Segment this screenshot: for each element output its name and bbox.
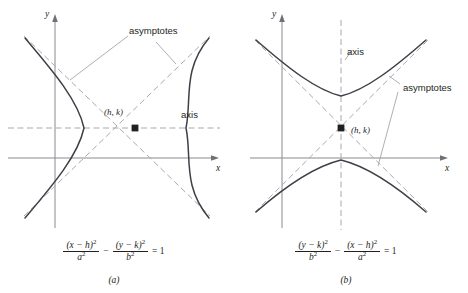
panel-b-equation: (y − k)2 b2 − (x − h)2 a2 = 1	[276, 238, 418, 264]
panel-b-equation-first-fraction: (y − k)2 b2	[295, 240, 330, 263]
panel-a-axis-label: axis	[181, 109, 198, 120]
panel-b-eq-second-denominator: a2	[355, 252, 369, 263]
panel-a-y-axis-label: y	[44, 9, 50, 19]
panel-b-eq-first-denominator: b2	[306, 252, 320, 263]
panel-b-eq-first-num-exp: 2	[324, 237, 327, 244]
panel-b-axis-label: axis	[347, 46, 364, 57]
panel-b-leader-upper	[389, 76, 400, 84]
panel-a-caption: (a)	[108, 275, 119, 286]
panel-b-caption: (b)	[340, 275, 351, 286]
panel-b-eq-second-num-text: (x − h)	[347, 240, 373, 250]
panel-a-eq-operator: −	[103, 246, 108, 256]
panel-b-x-axis-label: x	[444, 163, 450, 173]
panel-b-asymptote-leaders	[378, 76, 400, 166]
panel-a-leader-right	[156, 42, 176, 64]
panel-a-eq-second-den-exp: 2	[131, 249, 134, 256]
panel-a-center-marker	[132, 125, 139, 132]
panel-a-equation-first-fraction: (x − h)2 a2	[63, 240, 99, 263]
panel-b-center-marker	[338, 125, 345, 132]
panel-b-eq-second-num-exp: 2	[374, 237, 377, 244]
panel-a-eq-second-num-text: (y − k)	[116, 240, 142, 250]
panel-b-y-axis-arrow	[279, 14, 285, 22]
panel-b-asymptotes-label: asymptotes	[403, 82, 452, 93]
panel-a-eq-first-num-text: (x − h)	[66, 240, 92, 250]
panel-b-eq-first-den-exp: 2	[314, 249, 317, 256]
panel-b-eq-operator: −	[335, 246, 340, 256]
panel-b-x-axis-arrow	[440, 155, 448, 161]
panel-a-eq-second-denominator: b2	[123, 252, 137, 263]
panel-a-x-axis-arrow	[211, 155, 219, 161]
panel-b-y-axis-label: y	[271, 9, 277, 19]
panel-a-equation: (x − h)2 a2 − (y − k)2 b2 = 1	[44, 238, 186, 264]
panel-a-eq-first-num-exp: 2	[93, 237, 96, 244]
panel-b-eq-equals: = 1	[384, 246, 396, 256]
panel-a-equation-second-fraction: (y − k)2 b2	[113, 240, 148, 263]
panel-a-asymptotes-label: asymptotes	[129, 25, 178, 36]
panel-a-asymptote-leaders	[70, 36, 176, 80]
panel-b-eq-first-num-text: (y − k)	[298, 240, 324, 250]
panel-b-leader-lower	[378, 92, 398, 166]
hyperbola-figure: asymptotes axis (h, k) y x (a)	[0, 0, 468, 293]
panel-a-eq-equals: = 1	[152, 246, 164, 256]
panel-a-eq-second-num-exp: 2	[142, 237, 145, 244]
panel-a-y-axis-arrow	[52, 14, 58, 22]
panel-a-eq-first-den-exp: 2	[82, 249, 85, 256]
panel-a-eq-first-denominator: a2	[74, 252, 88, 263]
panel-a-x-axis-label: x	[215, 163, 221, 173]
panel-a-asymptotes	[24, 36, 210, 216]
panel-b-eq-second-den-exp: 2	[363, 249, 366, 256]
panel-a-leader-left	[70, 36, 128, 80]
panel-b-center-label: (h, k)	[351, 125, 370, 135]
panel-a-center-label: (h, k)	[104, 107, 123, 117]
panel-b-equation-second-fraction: (x − h)2 a2	[344, 240, 380, 263]
